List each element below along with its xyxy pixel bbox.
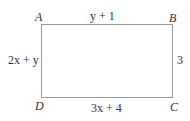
side-dc-label: 3x + 4 — [91, 102, 122, 114]
side-bc-label: 3 — [177, 54, 183, 66]
vertex-a-label: A — [35, 11, 42, 23]
rectangle-abcd — [41, 24, 173, 98]
side-ab-label: y + 1 — [90, 10, 115, 22]
side-ad-label: 2x + y — [8, 54, 39, 66]
vertex-c-label: C — [170, 101, 178, 113]
vertex-b-label: B — [169, 12, 176, 24]
vertex-d-label: D — [35, 100, 44, 112]
